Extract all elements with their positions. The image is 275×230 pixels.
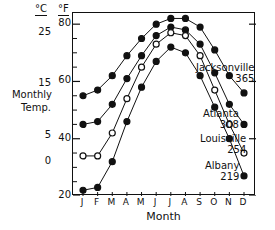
x-tick-1: F [91,197,103,208]
celsius-tick-0: 0 [31,156,51,166]
y-axis-title: Monthly Temp. [1,88,63,114]
series-label-value: 219 [205,171,239,182]
series-label-name: Louisville [200,133,246,144]
series-label-name: Albany [205,160,239,171]
celsius-tick-25: 25 [31,27,51,37]
fahrenheit-tick-80: 80 [55,18,71,28]
celsius-tick-15: 15 [31,78,51,88]
x-tick-0: J [76,197,88,208]
x-tick-10: N [222,197,234,208]
x-axis-title: Month [72,210,255,223]
fahrenheit-tick-40: 40 [55,133,71,143]
x-axis-tick-labels: JFMAMJJASOND [72,197,255,210]
celsius-axis-header: °C [35,4,47,16]
x-tick-7: A [178,197,190,208]
series-label-value: 308 [203,119,239,130]
series-label-atlanta: Atlanta 308 [203,108,239,130]
series-label-name: Jacksonville [196,62,254,73]
fahrenheit-tick-20: 20 [55,190,71,200]
series-label-value: 254 [200,144,246,155]
x-tick-5: J [149,197,161,208]
series-label-jacksonville: Jacksonville 365 [196,62,254,84]
celsius-tick-5: 5 [31,130,51,140]
fahrenheit-axis-header: °F [58,4,69,16]
x-tick-8: S [193,197,205,208]
y-axis-title-line1: Monthly [12,89,52,100]
x-tick-2: M [105,197,117,208]
fahrenheit-tick-60: 60 [55,75,71,85]
series-label-value: 365 [196,73,254,84]
x-tick-6: J [164,197,176,208]
x-tick-11: D [237,197,249,208]
x-tick-4: M [135,197,147,208]
series-label-louisville: Louisville 254 [200,133,246,155]
series-label-albany: Albany 219 [205,160,239,182]
series-label-name: Atlanta [203,108,239,119]
x-tick-3: A [120,197,132,208]
chart-figure: °C °F 25 15 5 0 80 60 40 20 Monthly Temp… [0,0,275,230]
x-tick-9: O [208,197,220,208]
y-axis-title-line2: Temp. [1,101,63,114]
